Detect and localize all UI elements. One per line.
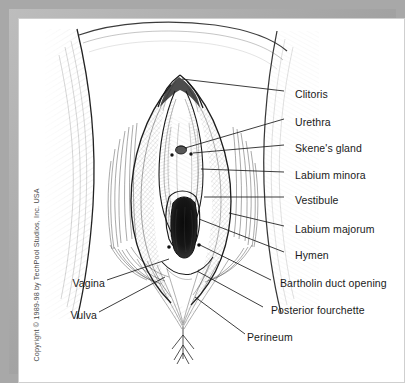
illustration-page: Clitoris Urethra Skene's gland Labium mi… (0, 0, 405, 383)
label-urethra: Urethra (295, 117, 331, 128)
anatomy-illustration (19, 19, 405, 383)
frame-inner-white-area: Clitoris Urethra Skene's gland Labium mi… (18, 18, 405, 383)
label-skenes-gland: Skene's gland (295, 143, 362, 154)
leader-perineum (195, 297, 245, 334)
label-vagina: Vagina (39, 278, 105, 289)
mons-pubis-contour (79, 22, 287, 69)
label-vestibule: Vestibule (295, 195, 339, 206)
label-perineum: Perineum (247, 332, 293, 343)
label-bartholin-duct-opening: Bartholin duct opening (280, 278, 387, 289)
urethral-meatus (176, 146, 188, 154)
label-clitoris: Clitoris (295, 89, 328, 100)
label-labium-majorum: Labium majorum (295, 224, 375, 235)
leader-vulva (99, 277, 165, 312)
label-labium-minora: Labium minora (295, 170, 366, 181)
label-posterior-fourchette: Posterior fourchette (271, 305, 365, 316)
label-hymen: Hymen (295, 250, 329, 261)
vaginal-introitus (171, 197, 197, 258)
outer-frame: Clitoris Urethra Skene's gland Labium mi… (0, 0, 405, 383)
label-vulva: Vulva (39, 310, 97, 321)
left-thigh (45, 29, 94, 319)
copyright-notice: Copyright © 1989-98 by TechPool Studios,… (32, 202, 41, 362)
